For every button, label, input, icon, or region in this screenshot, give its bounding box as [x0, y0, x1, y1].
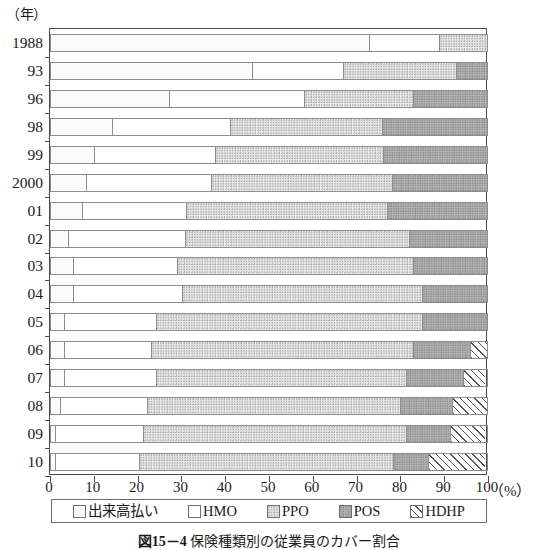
y-axis-tick — [45, 253, 50, 254]
legend-item-pos: POS — [339, 504, 381, 519]
bar-segment-hmo — [64, 370, 156, 386]
legend-swatch-icon — [267, 505, 280, 518]
bar-segment-hdhp — [450, 426, 485, 442]
bar-segment-出来高払い — [51, 314, 64, 330]
bar-segment-出来高払い — [51, 91, 169, 107]
bar-segment-hmo — [86, 175, 211, 191]
y-axis-tick-label: 06 — [0, 342, 43, 358]
table-row — [50, 341, 488, 359]
y-axis-tick — [45, 392, 50, 393]
bar-segment-hmo — [60, 398, 147, 414]
figure-caption: 図15－4 保険種類別の従業員のカバー割合 — [0, 530, 538, 550]
chart-legend: 出来高払いHMOPPOPOSHDHP — [51, 499, 487, 523]
y-axis-tick-label: 03 — [0, 258, 43, 274]
table-row — [50, 146, 488, 164]
bar-segment-ppo — [230, 119, 383, 135]
bar-segment-pos — [413, 258, 487, 274]
y-axis-tick — [45, 225, 50, 226]
bar-segment-出来高払い — [51, 398, 60, 414]
bar-segment-pos — [422, 314, 487, 330]
bar-segment-pos — [406, 426, 450, 442]
x-axis-tick-label: 90 — [436, 479, 451, 496]
table-row — [50, 397, 488, 415]
bar-segment-hmo — [73, 258, 178, 274]
legend-label: HDHP — [425, 504, 464, 519]
bar-segment-hmo — [369, 35, 439, 51]
bar-segment-出来高払い — [51, 231, 68, 247]
bar-segment-出来高払い — [51, 286, 73, 302]
bar-segment-出来高払い — [51, 258, 73, 274]
bar-segment-pos — [393, 454, 428, 470]
bar-segment-hmo — [169, 91, 304, 107]
legend-swatch-icon — [188, 505, 201, 518]
plot-area — [49, 28, 487, 475]
table-row — [50, 425, 488, 443]
y-axis-tick-label: 1988 — [0, 35, 43, 51]
x-axis-tick-label: 30 — [173, 479, 188, 496]
x-axis-tick-label: 40 — [217, 479, 232, 496]
bar-segment-hmo — [94, 147, 215, 163]
x-axis-tick-label: 50 — [261, 479, 276, 496]
bar-segment-hdhp — [470, 342, 487, 358]
y-axis-tick — [45, 448, 50, 449]
bar-segment-hmo — [252, 63, 344, 79]
table-row — [50, 230, 488, 248]
bar-segment-hdhp — [452, 398, 487, 414]
bar-segment-ppo — [143, 426, 406, 442]
table-row — [50, 313, 488, 331]
y-axis-tick-label: 05 — [0, 314, 43, 330]
bar-segment-出来高払い — [51, 147, 94, 163]
bar-segment-出来高払い — [51, 175, 86, 191]
bar-segment-pos — [387, 203, 487, 219]
table-row — [50, 118, 488, 136]
table-row — [50, 202, 488, 220]
table-row — [50, 369, 488, 387]
y-axis-tick-label: 08 — [0, 398, 43, 414]
x-axis-tick-label: 60 — [304, 479, 319, 496]
y-axis-tick — [45, 141, 50, 142]
bar-segment-ppo — [177, 258, 412, 274]
y-axis-tick-label: 09 — [0, 426, 43, 442]
bar-segment-出来高払い — [51, 342, 64, 358]
bar-segment-pos — [406, 370, 463, 386]
table-row — [50, 257, 488, 275]
y-axis-tick — [45, 280, 50, 281]
bar-segment-pos — [413, 342, 470, 358]
bar-segment-pos — [392, 175, 487, 191]
bar-segment-hdhp — [428, 454, 485, 470]
bar-segment-hmo — [55, 454, 138, 470]
x-axis-tick-label: 0 — [45, 479, 53, 496]
bar-segment-hdhp — [463, 370, 485, 386]
table-row — [50, 62, 488, 80]
y-axis-tick — [45, 364, 50, 365]
x-axis-tick-label: 20 — [129, 479, 144, 496]
bar-segment-出来高払い — [51, 203, 82, 219]
x-axis-tick-label: 80 — [392, 479, 407, 496]
y-axis-tick-label: 01 — [0, 203, 43, 219]
bar-segment-hmo — [73, 286, 182, 302]
y-axis-tick-label: 93 — [0, 63, 43, 79]
bar-segment-hmo — [64, 314, 156, 330]
y-axis-tick — [45, 85, 50, 86]
bar-segment-ppo — [156, 370, 406, 386]
legend-label: HMO — [203, 504, 237, 519]
y-axis-tick-label: 07 — [0, 370, 43, 386]
bar-segment-hmo — [82, 203, 187, 219]
bar-segment-ppo — [215, 147, 383, 163]
y-axis-tick-label: 10 — [0, 454, 43, 470]
legend-label: POS — [354, 504, 381, 519]
bar-segment-ppo — [151, 342, 413, 358]
bar-segment-出来高払い — [51, 119, 112, 135]
figure-number: 図15－4 — [138, 534, 187, 549]
x-axis-tick-label: 10 — [85, 479, 100, 496]
y-axis-tick-label: 04 — [0, 286, 43, 302]
legend-swatch-icon — [73, 505, 86, 518]
figure-caption-text: 保険種類別の従業員のカバー割合 — [190, 534, 400, 549]
y-axis-tick — [45, 113, 50, 114]
bar-segment-hmo — [112, 119, 230, 135]
table-row — [50, 34, 488, 52]
y-axis-tick-label: 98 — [0, 119, 43, 135]
bar-segment-pos — [422, 286, 487, 302]
bar-segment-ppo — [211, 175, 392, 191]
y-axis-tick-label: 2000 — [0, 175, 43, 191]
